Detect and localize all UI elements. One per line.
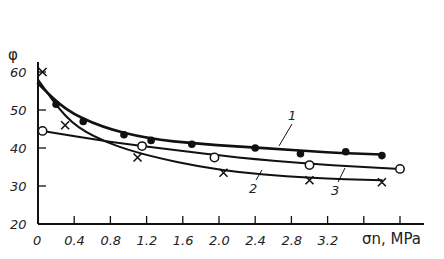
- cross-marker: [61, 121, 69, 129]
- y-axis-title: φ: [8, 46, 18, 64]
- filled-circle-marker: [188, 140, 196, 148]
- filled-circle-marker: [378, 152, 386, 160]
- curve-1: [38, 83, 382, 154]
- curves: [38, 80, 400, 182]
- x-tick-label: 0: [33, 233, 41, 248]
- markers: [38, 68, 404, 186]
- y-tick-label: 30: [10, 179, 27, 194]
- filled-circle-marker: [147, 137, 155, 145]
- open-circle-marker: [38, 127, 46, 135]
- filled-circle-marker: [251, 144, 259, 152]
- x-tick-label: 2.8: [281, 233, 302, 248]
- filled-circle-marker: [297, 150, 305, 158]
- x-tick-label: 2.4: [245, 233, 266, 248]
- open-circle-marker: [396, 165, 404, 173]
- filled-circle-marker: [342, 148, 350, 156]
- leader-1: [279, 124, 292, 146]
- filled-circle-marker: [79, 118, 87, 126]
- y-tick-label: 50: [10, 103, 27, 118]
- curve-label-1: 1: [288, 108, 296, 123]
- x-tick-label: 3.2: [318, 233, 339, 248]
- filled-circle-marker: [120, 131, 128, 139]
- cross-marker: [134, 154, 142, 162]
- x-tick-label: 1.6: [173, 233, 194, 248]
- curve-label-2: 2: [249, 181, 257, 196]
- open-circle-marker: [305, 161, 313, 169]
- y-tick-label: 40: [10, 141, 27, 156]
- filled-circle-marker: [52, 101, 60, 109]
- friction-angle-chart: 00.40.81.21.62.02.42.83.22030405060 φ σn…: [0, 0, 444, 259]
- x-axis-title: σn, MPa: [362, 230, 421, 248]
- y-tick-label: 20: [10, 217, 27, 232]
- x-tick-label: 1.2: [137, 233, 158, 248]
- x-tick-label: 0.8: [100, 233, 121, 248]
- y-tick-label: 60: [10, 65, 27, 80]
- curve-label-3: 3: [331, 183, 339, 198]
- open-circle-marker: [210, 153, 218, 161]
- x-tick-label: 0.4: [64, 233, 85, 248]
- open-circle-marker: [138, 142, 146, 150]
- x-tick-label: 2.0: [209, 233, 230, 248]
